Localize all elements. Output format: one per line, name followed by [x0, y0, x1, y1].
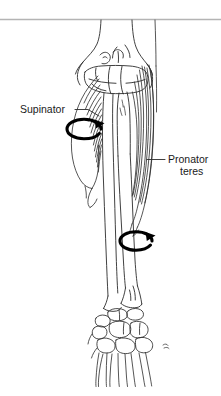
forearm-anatomy-illustration: Supinator Pronator teres [0, 0, 221, 396]
pronator-teres-label-line1: Pronator [168, 153, 209, 165]
anatomy-figure: Supinator Pronator teres [0, 0, 221, 396]
figure-background [0, 0, 221, 396]
supinator-label: Supinator [20, 103, 65, 115]
pronator-teres-label-line2: teres [180, 165, 203, 177]
